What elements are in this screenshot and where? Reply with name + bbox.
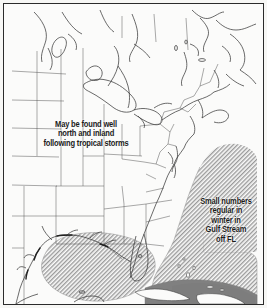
map-frame: May be found well north and inland follo… [3,3,264,305]
map-canvas [4,4,263,304]
range-map-figure: May be found well north and inland follo… [0,0,267,308]
